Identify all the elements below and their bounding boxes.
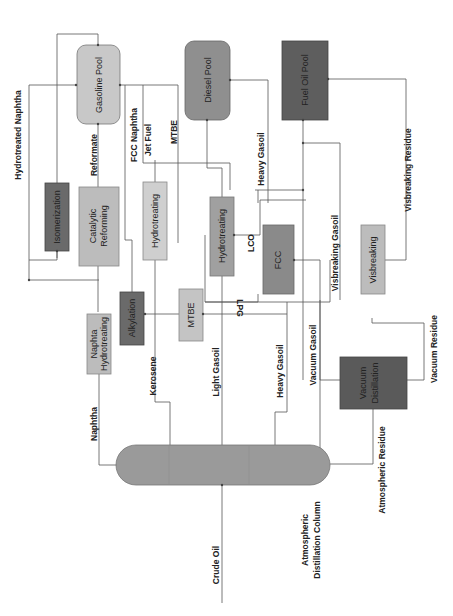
diesel-inlet-line [207,120,222,199]
diesel-pool-label: Diesel Pool [203,57,213,103]
lco-label: LCO [246,234,256,252]
vacuum-gasoil-line [320,300,341,380]
naphta-hydrotreating-label-1: Naphta [89,329,99,358]
vacuum-gasoil-label: Vacuum Gasoil [308,325,318,386]
mtbe-stream-label: MTBE [169,120,179,144]
naphtha-line [99,374,117,465]
atmospheric-distillation-column-node[interactable] [116,445,330,485]
vacuum-residue-label: Vacuum Residue [429,315,439,383]
hydrotreating-lgo-node[interactable]: Hydrotreating [210,197,234,276]
atmospheric-residue-label: Atmospheric Residue [377,426,387,514]
hydrotreating-lgo-label: Hydrotreating [217,209,227,263]
mtbe-node[interactable]: MTBE [179,289,203,341]
atmospheric-residue-line [330,409,373,464]
isomerization-node[interactable]: Isomerization [45,183,69,251]
fuel-oil-pool-label: Fuel Oil Pool [300,54,310,106]
diesel-pool-node[interactable]: Diesel Pool [185,41,230,120]
vacuum-distillation-label-2: Distillation [370,362,380,403]
kerosene-label: Kerosene [148,356,158,395]
hydrotreated-naphtha-label: Hydrotreated Naphtha [13,90,23,180]
isomerization-feed-line [29,251,57,260]
crude-oil-label: Crude Oil [211,546,221,584]
catalytic-reforming-node[interactable]: Catalytic Reforming [79,187,119,266]
vacuum-distillation-node[interactable]: Vacuum Distillation [340,357,407,409]
visbreaking-gasoil-label: Visbreaking Gasoil [330,215,340,291]
stream-labels: Hydrotreated Naphtha Reformate FCC Napht… [13,90,439,584]
naphtha-label: Naphtha [89,407,99,441]
lpg-label: LPG [235,299,245,317]
isomerization-label: Isomerization [52,190,62,244]
alkylation-node[interactable]: Alkylation [120,292,144,345]
naphta-hydrotreating-node[interactable]: Naphta Hydrotreating [87,314,111,374]
visbreaking-node[interactable]: Visbreaking [361,225,385,294]
jet-fuel-label: Jet Fuel [143,124,153,156]
reformate-label: Reformate [89,134,99,176]
hydrotreating-kerosene-node[interactable]: Hydrotreating [143,182,167,260]
naphta-hydrotreating-label-2: Hydrotreating [99,317,109,371]
column-label-2: Distillation Column [312,501,322,578]
refinery-flow-diagram: Gasoline Pool Diesel Pool Fuel Oil Pool … [0,0,453,616]
catalytic-reforming-label-1: Catalytic [88,208,98,243]
kerosene-line [155,260,170,447]
gasoline-pool-node[interactable]: Gasoline Pool [77,45,120,124]
catalytic-reforming-label-2: Reforming [99,205,109,247]
visbreaking-label: Visbreaking [368,237,378,284]
heavy-gasoil-label: Heavy Gasoil [275,344,285,397]
fcc-naphtha-label: FCC Naphtha [129,108,139,162]
light-gasoil-label: Light Gasoil [211,347,221,396]
fcc-node[interactable]: FCC [263,225,294,294]
column-label-1: Atmospheric [300,514,310,566]
mtbe-label: MTBE [186,302,196,327]
heavy-gasoil-top-label: Heavy Gasoil [256,132,266,185]
vacuum-distillation-label-1: Vacuum [358,367,368,399]
hydrotreating-kerosene-label: Hydrotreating [150,194,160,248]
alkylation-label: Alkylation [127,299,137,338]
fcc-label: FCC [273,250,283,269]
gasoline-pool-label: Gasoline Pool [94,57,104,113]
fuel-oil-pool-node[interactable]: Fuel Oil Pool [282,41,328,120]
visbreaking-residue-label: Visbreaking Residue [403,128,413,212]
